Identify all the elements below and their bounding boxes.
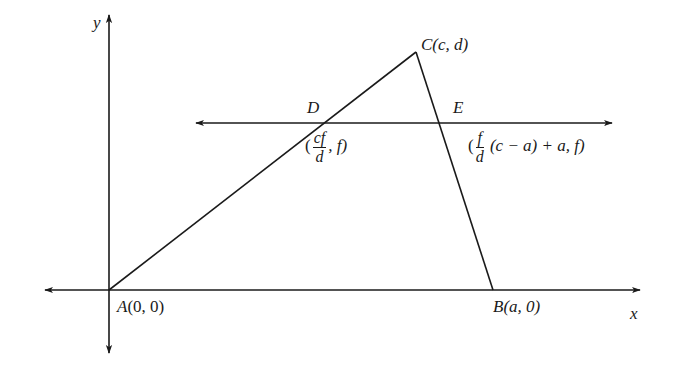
diagram: y x C(c, d) D (cfd, f) E (fd (c − a) + a… <box>0 0 684 369</box>
point-b-label: B(a, 0) <box>493 298 540 315</box>
point-c-name: C <box>421 35 432 54</box>
point-d-coords-rest: , f) <box>328 136 347 155</box>
point-e-frac-den: d <box>476 148 484 165</box>
x-axis-label: x <box>630 305 638 322</box>
point-d-coords: (cfd, f) <box>305 130 347 165</box>
point-d-name: D <box>307 99 319 116</box>
point-b-name: B <box>493 297 503 316</box>
point-e-name: E <box>453 99 463 116</box>
point-b-coords: (a, 0) <box>503 297 540 316</box>
point-c-label: C(c, d) <box>421 36 468 53</box>
segment-cb <box>416 52 493 290</box>
point-a-coords: (0, 0) <box>127 297 164 316</box>
point-a-label: A(0, 0) <box>117 298 164 315</box>
point-e-coords-rest: (c − a) + a, f) <box>486 136 585 155</box>
point-e-fraction: fd <box>476 130 484 165</box>
diagram-canvas <box>0 0 684 369</box>
point-d-paren: ( <box>305 136 311 155</box>
point-d-frac-den: d <box>313 148 327 165</box>
point-a-name: A <box>117 297 127 316</box>
segment-ac <box>109 52 416 290</box>
point-e-coords: (fd (c − a) + a, f) <box>468 130 585 165</box>
point-d-fraction: cfd <box>313 130 327 165</box>
point-c-coords: (c, d) <box>432 35 468 54</box>
point-d-frac-num: cf <box>313 130 327 148</box>
point-e-frac-num: f <box>476 130 484 148</box>
y-axis-label: y <box>93 14 101 31</box>
point-e-paren: ( <box>468 136 474 155</box>
